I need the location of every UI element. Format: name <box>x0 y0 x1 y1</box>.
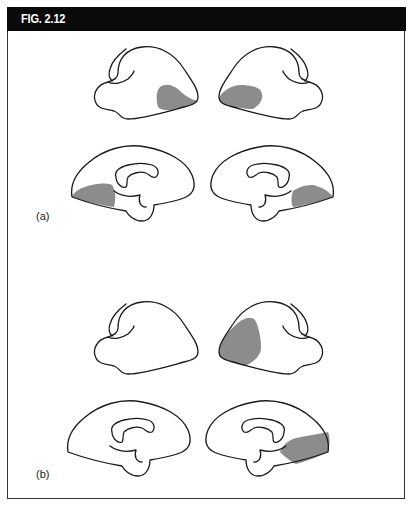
brain-diagrams <box>0 0 416 507</box>
panel-b-lateral-left <box>95 302 199 374</box>
panel-label-a: (a) <box>36 210 49 222</box>
panel-b-medial-left <box>68 401 190 476</box>
panel-b-lateral-right <box>219 302 323 374</box>
lesion-area <box>219 318 261 366</box>
panel-a-lateral-right <box>219 47 323 119</box>
panel-a-lateral-left <box>95 47 199 119</box>
panel-b-medial-right <box>206 401 330 476</box>
panel-label-b: (b) <box>36 468 49 480</box>
lesion-area <box>219 85 262 109</box>
lesion-area <box>157 85 198 110</box>
panel-a-medial-left <box>72 146 194 221</box>
panel-a-medial-right <box>211 146 333 221</box>
